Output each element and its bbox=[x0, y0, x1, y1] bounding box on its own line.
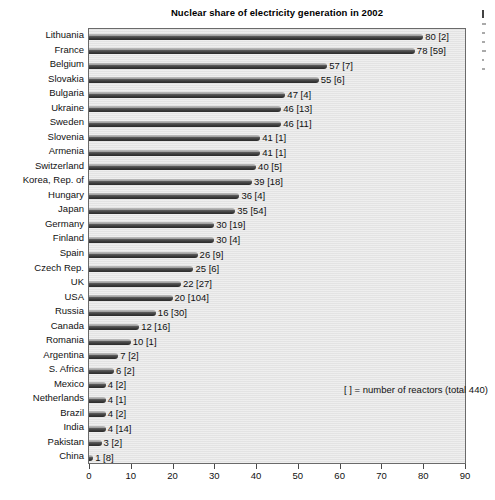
x-tick-mark bbox=[173, 464, 174, 469]
category-label-spain: Spain bbox=[0, 248, 84, 258]
bar-row: 4 [14] bbox=[89, 423, 465, 435]
bar-row: 22 [27] bbox=[89, 278, 465, 290]
bar-value-label: 10 [1] bbox=[133, 336, 157, 348]
bar-hungary bbox=[89, 193, 239, 199]
category-label-switzerland: Switzerland bbox=[0, 161, 84, 171]
plot-area: 80 [2]78 [59]57 [7]55 [6]47 [4]46 [13]46… bbox=[88, 28, 466, 464]
category-label-uk: UK bbox=[0, 277, 84, 287]
caption-text-fragment bbox=[482, 68, 485, 70]
bar-row: 78 [59] bbox=[89, 45, 465, 57]
category-label-armenia: Armenia bbox=[0, 146, 84, 156]
bar-value-label: 30 [19] bbox=[216, 219, 245, 231]
x-tick-mark bbox=[465, 464, 466, 469]
bar-usa bbox=[89, 295, 173, 301]
bar-value-label: 57 [7] bbox=[329, 60, 353, 72]
x-tick-mark bbox=[381, 464, 382, 469]
bar-japan bbox=[89, 208, 235, 214]
category-label-pakistan: Pakistan bbox=[0, 437, 84, 447]
x-tick-label: 90 bbox=[460, 470, 471, 482]
category-label-slovakia: Slovakia bbox=[0, 74, 84, 84]
category-axis-labels: LithuaniaFranceBelgiumSlovakiaBulgariaUk… bbox=[0, 28, 84, 464]
bar-mexico bbox=[89, 382, 106, 388]
category-label-canada: Canada bbox=[0, 321, 84, 331]
bar-value-label: 16 [30] bbox=[158, 307, 187, 319]
bar-row: 26 [9] bbox=[89, 249, 465, 261]
bar-value-label: 41 [1] bbox=[262, 147, 286, 159]
category-label-russia: Russia bbox=[0, 306, 84, 316]
bar-value-label: 4 [1] bbox=[108, 394, 127, 406]
bar-france bbox=[89, 48, 415, 54]
x-tick-label: 10 bbox=[125, 470, 136, 482]
x-tick-mark bbox=[89, 464, 90, 469]
bar-value-label: 46 [13] bbox=[283, 103, 312, 115]
x-tick-label: 60 bbox=[334, 470, 345, 482]
bar-value-label: 22 [27] bbox=[183, 278, 212, 290]
bar-value-label: 55 [6] bbox=[321, 74, 345, 86]
caption-text-fragment bbox=[482, 23, 486, 25]
category-label-s-africa: S. Africa bbox=[0, 364, 84, 374]
bar-india bbox=[89, 426, 106, 432]
x-tick-label: 40 bbox=[251, 470, 262, 482]
bar-s-africa bbox=[89, 368, 114, 374]
category-label-bulgaria: Bulgaria bbox=[0, 88, 84, 98]
category-label-netherlands: Netherlands bbox=[0, 393, 84, 403]
bar-value-label: 4 [14] bbox=[108, 423, 132, 435]
bar-brazil bbox=[89, 411, 106, 417]
x-axis-tick-labels: 0102030405060708090 bbox=[88, 470, 466, 484]
bar-argentina bbox=[89, 353, 118, 359]
bar-bulgaria bbox=[89, 92, 285, 98]
bar-switzerland bbox=[89, 164, 256, 170]
bar-spain bbox=[89, 252, 198, 258]
bar-row: 4 [1] bbox=[89, 394, 465, 406]
bar-row: 39 [18] bbox=[89, 176, 465, 188]
bar-value-label: 40 [5] bbox=[258, 161, 282, 173]
bar-row: 30 [19] bbox=[89, 219, 465, 231]
bar-slovenia bbox=[89, 135, 260, 141]
bar-value-label: 12 [16] bbox=[141, 321, 170, 333]
bar-canada bbox=[89, 324, 139, 330]
category-label-finland: Finland bbox=[0, 233, 84, 243]
category-label-china: China bbox=[0, 451, 84, 461]
bar-germany bbox=[89, 222, 214, 228]
bar-value-label: 78 [59] bbox=[417, 45, 446, 57]
bar-romania bbox=[89, 339, 131, 345]
bar-row: 47 [4] bbox=[89, 89, 465, 101]
x-tick-mark bbox=[423, 464, 424, 469]
category-label-sweden: Sweden bbox=[0, 117, 84, 127]
x-tick-mark bbox=[256, 464, 257, 469]
bar-row: 35 [54] bbox=[89, 205, 465, 217]
bar-value-label: 36 [4] bbox=[241, 190, 265, 202]
bar-row: 6 [2] bbox=[89, 365, 465, 377]
bar-russia bbox=[89, 310, 156, 316]
x-tick-label: 80 bbox=[418, 470, 429, 482]
bar-row: 3 [2] bbox=[89, 437, 465, 449]
x-tick-label: 20 bbox=[167, 470, 178, 482]
bar-value-label: 47 [4] bbox=[287, 89, 311, 101]
bar-value-label: 46 [11] bbox=[283, 118, 311, 130]
category-label-hungary: Hungary bbox=[0, 190, 84, 200]
bar-value-label: 25 [6] bbox=[195, 263, 219, 275]
caption-text-fragment bbox=[482, 41, 485, 43]
caption-text-fragment bbox=[482, 32, 485, 34]
bar-row: 25 [6] bbox=[89, 263, 465, 275]
bar-row: 80 [2] bbox=[89, 31, 465, 43]
bar-value-label: 20 [104] bbox=[175, 292, 209, 304]
bar-china bbox=[89, 455, 93, 461]
x-tick-mark bbox=[131, 464, 132, 469]
bar-belgium bbox=[89, 63, 327, 69]
x-tick-label: 50 bbox=[293, 470, 304, 482]
bar-row: 10 [1] bbox=[89, 336, 465, 348]
bar-slovakia bbox=[89, 77, 319, 83]
bar-korea-rep-of bbox=[89, 179, 252, 185]
chart-title: Nuclear share of electricity generation … bbox=[88, 7, 466, 18]
bar-row: 55 [6] bbox=[89, 74, 465, 86]
bar-lithuania bbox=[89, 34, 423, 40]
bar-ukraine bbox=[89, 106, 281, 112]
bar-uk bbox=[89, 281, 181, 287]
x-tick-label: 70 bbox=[376, 470, 387, 482]
bar-value-label: 26 [9] bbox=[200, 249, 224, 261]
x-tick-label: 0 bbox=[86, 470, 91, 482]
caption-text-fragment bbox=[482, 59, 484, 61]
bar-value-label: 39 [18] bbox=[254, 176, 283, 188]
category-label-brazil: Brazil bbox=[0, 408, 84, 418]
